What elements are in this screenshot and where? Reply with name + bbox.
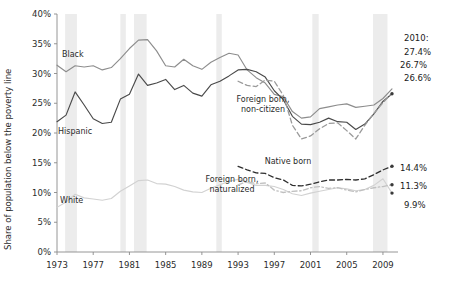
y-tick-label: 10% — [32, 188, 51, 198]
y-axis-title: Share of population below the poverty li… — [3, 69, 13, 250]
endpoint-value-label: 26.6% — [404, 73, 431, 83]
x-tick-label: 1989 — [191, 260, 213, 270]
endpoint-marker — [390, 183, 393, 186]
endpoint-markers — [390, 92, 393, 195]
y-axis-ticklabels: 0%5%10%15%20%25%30%35%40% — [32, 9, 57, 257]
y-tick-label: 40% — [32, 9, 51, 19]
x-tick-label: 1973 — [46, 260, 68, 270]
x-axis-ticklabels: 1973197719811985198919931997200120052009 — [46, 252, 394, 270]
x-tick-label: 1981 — [119, 260, 141, 270]
y-tick-label: 35% — [32, 39, 51, 49]
axes — [57, 14, 398, 252]
endpoint-value-label: 14.4% — [400, 163, 427, 173]
y-tick-label: 20% — [32, 128, 51, 138]
series-label: Foreign born,non-citizen — [237, 95, 290, 114]
x-tick-label: 1997 — [263, 260, 285, 270]
x-tick-label: 2001 — [300, 260, 322, 270]
series-label: White — [60, 196, 83, 205]
endpoint-value-label: 11.3% — [400, 181, 427, 191]
endpoint-year-label: 2010: — [404, 33, 429, 43]
chart-svg: 0%5%10%15%20%25%30%35%40% 19731977198119… — [0, 0, 450, 290]
series-inline-labels: BlackHispanicWhiteForeign born,non-citiz… — [58, 50, 311, 205]
endpoint-marker — [390, 191, 393, 194]
x-tick-label: 1977 — [82, 260, 104, 270]
endpoint-marker — [390, 165, 393, 168]
x-tick-label: 1985 — [155, 260, 177, 270]
endpoint-value-label: 9.9% — [404, 200, 426, 210]
endpoint-value-label: 27.4% — [404, 47, 431, 57]
y-tick-label: 15% — [32, 158, 51, 168]
y-tick-label: 5% — [38, 217, 52, 227]
recession-bands — [65, 14, 387, 252]
x-tick-label: 1993 — [227, 260, 249, 270]
y-tick-label: 30% — [32, 69, 51, 79]
series-label: Black — [62, 50, 84, 59]
endpoint-marker — [390, 92, 393, 95]
x-tick-label: 2009 — [372, 260, 394, 270]
series-label: Foreign born,naturalized — [206, 175, 259, 194]
series-label: Native born — [265, 157, 312, 166]
y-tick-label: 0% — [38, 247, 52, 257]
endpoint-value-label: 26.7% — [400, 60, 427, 70]
series-label: Hispanic — [58, 127, 92, 136]
series-line — [57, 69, 392, 129]
endpoint-value-labels: 2010:27.4%26.7%26.6%14.4%11.3%9.9% — [400, 33, 431, 210]
poverty-line-chart: 0%5%10%15%20%25%30%35%40% 19731977198119… — [0, 0, 450, 290]
x-tick-label: 2005 — [336, 260, 358, 270]
y-tick-label: 25% — [32, 98, 51, 108]
